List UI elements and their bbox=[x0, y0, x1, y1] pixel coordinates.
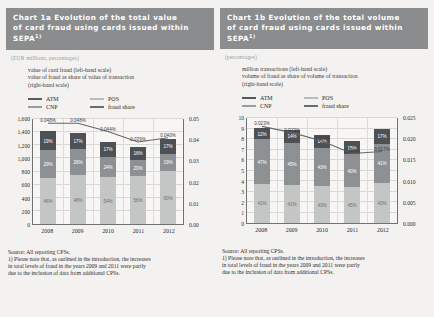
legend-swatch-cnp-icon bbox=[28, 106, 42, 109]
fraud-share-line bbox=[247, 118, 397, 223]
y-tick-right: 0.02 bbox=[186, 180, 217, 186]
y-tick-right: 0.015 bbox=[400, 157, 431, 163]
y-tick-left: 4 bbox=[220, 179, 244, 185]
line-point-label: 0.023% bbox=[254, 121, 269, 126]
x-tick-label: 2008 bbox=[246, 227, 276, 239]
y-tick-left: 5 bbox=[220, 168, 244, 174]
axis-desc-line-3: (right-hand scale) bbox=[242, 81, 428, 88]
y-tick-right: 0.01 bbox=[186, 201, 217, 207]
axis-desc-line-1: value of card fraud (left-hand scale) bbox=[28, 67, 214, 74]
line-point-label: 0.017% bbox=[374, 147, 389, 152]
legend-label-fraud-share: fraud share bbox=[322, 103, 349, 109]
source-line-2: 1) Please note that, as outlined in the … bbox=[8, 256, 212, 263]
legend-label-atm: ATM bbox=[46, 96, 59, 102]
chart-1b-x-axis: 20082009201020112012 bbox=[246, 227, 398, 239]
chart-1b-source-note: Source: All reporting CPSs. 1) Please no… bbox=[220, 242, 428, 276]
chart-1b-axis-description: million transactions (left-hand scale) v… bbox=[220, 60, 428, 88]
y-tick-left: 2 bbox=[220, 200, 244, 206]
source-line-2: 1) Please note that, as outlined in the … bbox=[222, 255, 426, 262]
chart-1a-units: (EUR millions, percentages) bbox=[6, 50, 214, 61]
legend-label-cnp: CNP bbox=[260, 103, 272, 109]
footnote-marker: 1) bbox=[35, 33, 42, 39]
y-tick-left: 400 bbox=[6, 196, 30, 202]
y-tick-left: 1,200 bbox=[6, 143, 30, 149]
chart-1a-y-axis-left: 02004006008001,0001,2001,4001,600 bbox=[6, 119, 30, 225]
y-tick-right: 0.03 bbox=[186, 158, 217, 164]
y-tick-left: 3 bbox=[220, 189, 244, 195]
legend-item-pos: POS bbox=[90, 96, 214, 102]
chart-1a-legend: ATM POS CNP fraud share bbox=[6, 89, 214, 110]
chart-1b-title: Chart 1b Evolution of the total volume o… bbox=[220, 8, 428, 49]
footnote-marker: 1) bbox=[249, 33, 256, 39]
chart-1b-legend: ATM POS CNP fraud share bbox=[220, 88, 428, 109]
x-tick-label: 2012 bbox=[154, 228, 184, 240]
legend-item-pos: POS bbox=[304, 95, 428, 101]
chart-1a-x-axis: 20082009201020112012 bbox=[32, 228, 184, 240]
legend-label-pos: POS bbox=[108, 96, 119, 102]
source-line-1: Source: All reporting CPSs. bbox=[222, 248, 426, 255]
chart-1a-axis-description: value of card fraud (left-hand scale) va… bbox=[6, 61, 214, 89]
legend-item-atm: ATM bbox=[28, 96, 90, 102]
legend-swatch-cnp-icon bbox=[242, 105, 256, 108]
line-point-label: 0.039% bbox=[130, 137, 145, 142]
legend-item-cnp: CNP bbox=[242, 103, 304, 109]
legend-swatch-pos-icon bbox=[90, 98, 104, 101]
line-point-label: 0.048% bbox=[70, 118, 85, 123]
x-tick-label: 2011 bbox=[337, 227, 367, 239]
line-point-label: 0.023% bbox=[284, 128, 299, 133]
y-tick-left: 1,400 bbox=[6, 129, 30, 135]
y-tick-left: 600 bbox=[6, 182, 30, 188]
source-line-4: due to the inclusion of data from additi… bbox=[222, 269, 426, 276]
chart-1b-y-axis-right: 0.0000.0050.0100.0150.0200.025 bbox=[400, 118, 428, 224]
line-point-label: 0.044% bbox=[100, 127, 115, 132]
legend-swatch-line-icon bbox=[304, 105, 318, 106]
axis-desc-line-2: volume of fraud as share of volume of tr… bbox=[242, 73, 428, 80]
legend-label-atm: ATM bbox=[260, 95, 273, 101]
x-tick-label: 2010 bbox=[307, 227, 337, 239]
legend-label-fraud-share: fraud share bbox=[108, 104, 135, 110]
legend-swatch-line-icon bbox=[90, 106, 104, 107]
line-point-label: 0.017% bbox=[344, 149, 359, 154]
x-tick-label: 2010 bbox=[93, 228, 123, 240]
x-tick-label: 2011 bbox=[123, 228, 153, 240]
legend-item-fraud-share: fraud share bbox=[90, 104, 214, 110]
y-tick-left: 800 bbox=[6, 169, 30, 175]
source-line-3: in total levels of fraud in the years 20… bbox=[222, 262, 426, 269]
chart-1b-y-axis-left: 012345678910 bbox=[220, 118, 244, 224]
axis-desc-line-2: value of fraud as share of value of tran… bbox=[28, 74, 214, 81]
axis-desc-line-3: (right-hand scale) bbox=[28, 82, 214, 89]
y-tick-right: 0.005 bbox=[400, 200, 431, 206]
x-tick-label: 2008 bbox=[32, 228, 62, 240]
chart-1b-canvas: 41%47%12%41%45%14%43%43%14%45%40%15%43%4… bbox=[246, 118, 398, 224]
chart-1a-source-note: Source: All reporting CPSs. 1) Please no… bbox=[6, 243, 214, 277]
legend-swatch-pos-icon bbox=[304, 97, 318, 100]
legend-label-cnp: CNP bbox=[46, 104, 58, 110]
legend-label-pos: POS bbox=[322, 95, 333, 101]
line-point-label: 0.048% bbox=[40, 118, 55, 123]
y-tick-left: 7 bbox=[220, 147, 244, 153]
y-tick-right: 0.04 bbox=[186, 137, 217, 143]
y-tick-right: 0.05 bbox=[186, 116, 217, 122]
chart-1b-title-line-2: of card fraud using cards issued within bbox=[227, 23, 421, 33]
line-point-label: 0.040% bbox=[160, 133, 175, 138]
y-tick-left: 0 bbox=[6, 222, 30, 228]
legend-swatch-atm-icon bbox=[28, 98, 42, 101]
y-tick-left: 1,600 bbox=[6, 116, 30, 122]
chart-1a-title-line-1: Chart 1a Evolution of the total value bbox=[13, 13, 207, 23]
y-tick-left: 9 bbox=[220, 126, 244, 132]
chart-1a-title: Chart 1a Evolution of the total value of… bbox=[6, 8, 214, 50]
x-tick-label: 2009 bbox=[62, 228, 92, 240]
axis-desc-line-1: million transactions (left-hand scale) bbox=[242, 66, 428, 73]
y-tick-left: 8 bbox=[220, 136, 244, 142]
x-tick-label: 2009 bbox=[276, 227, 306, 239]
legend-item-cnp: CNP bbox=[28, 104, 90, 110]
chart-panel-1b: Chart 1b Evolution of the total volume o… bbox=[220, 8, 428, 317]
chart-1a-y-axis-right: 0.000.010.020.030.040.05 bbox=[186, 119, 214, 225]
y-tick-right: 0.000 bbox=[400, 221, 431, 227]
y-tick-left: 0 bbox=[220, 221, 244, 227]
chart-1a-canvas: 46%29%19%48%26%17%54%24%17%56%20%16%60%1… bbox=[32, 119, 184, 225]
y-tick-left: 200 bbox=[6, 209, 30, 215]
figure-page: Chart 1a Evolution of the total value of… bbox=[0, 0, 434, 317]
y-tick-right: 0.010 bbox=[400, 179, 431, 185]
chart-panel-1a: Chart 1a Evolution of the total value of… bbox=[6, 8, 214, 317]
